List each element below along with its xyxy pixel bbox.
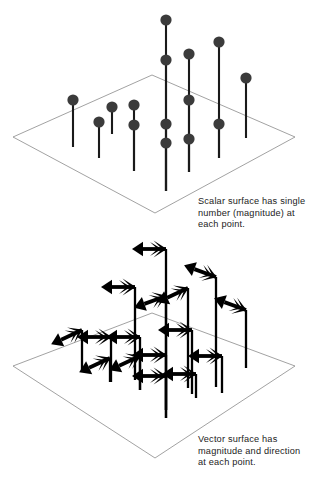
vector-marker (132, 368, 166, 419)
vector-arrow (132, 241, 166, 258)
arrow-head (212, 292, 227, 309)
scalar-marker (213, 118, 224, 158)
arrow-head (132, 242, 143, 256)
scalar-marker (93, 116, 104, 158)
scalar-marker (106, 101, 117, 134)
magnitude-ball (183, 94, 194, 105)
scalar-marker (240, 72, 251, 138)
vector-surface-panel (13, 241, 295, 459)
arrow-head (182, 259, 197, 276)
scalar-marker (128, 119, 139, 171)
vector-arrow (101, 279, 135, 296)
magnitude-ball (128, 119, 139, 130)
magnitude-ball (183, 133, 194, 144)
scalar-marker (67, 94, 78, 147)
magnitude-ball (213, 118, 224, 129)
plane-outline (13, 75, 295, 213)
magnitude-ball (183, 48, 194, 59)
arrow-head (188, 349, 199, 363)
vector-marker (132, 347, 166, 419)
arrow-head (158, 323, 169, 337)
vector-arrow (181, 257, 219, 285)
vector-arrow (132, 368, 166, 385)
magnitude-ball (160, 14, 171, 25)
arrow-head (106, 359, 122, 377)
magnitude-ball (106, 101, 117, 112)
scalar-vector-surface-figure: Scalar surface has single number (magnit… (0, 0, 335, 487)
magnitude-ball (160, 118, 171, 129)
vector-marker (131, 288, 169, 410)
vector-caption: Vector surface has magnitude and directi… (198, 434, 328, 469)
scalar-marker (160, 137, 171, 191)
vector-marker (181, 257, 219, 387)
scalar-marker (183, 133, 194, 172)
magnitude-ball (160, 137, 171, 148)
arrow-head (132, 369, 143, 383)
arrow-head (101, 280, 112, 294)
magnitude-ball (128, 99, 139, 110)
magnitude-ball (67, 94, 78, 105)
scalar-surface-panel (13, 14, 295, 213)
figure-canvas (0, 0, 335, 487)
magnitude-ball (213, 36, 224, 47)
vector-marker (132, 241, 166, 411)
magnitude-ball (93, 116, 104, 127)
magnitude-ball (240, 72, 251, 83)
arrow-head (76, 361, 92, 379)
vector-marker (48, 322, 86, 370)
arrow-head (48, 333, 64, 351)
scalar-caption: Scalar surface has single number (magnit… (198, 196, 328, 231)
arrow-head (162, 367, 173, 381)
magnitude-ball (160, 54, 171, 65)
